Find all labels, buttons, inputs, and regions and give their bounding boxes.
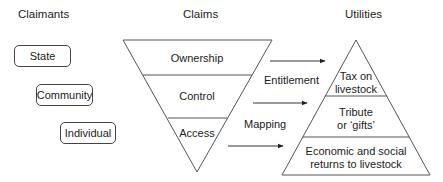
- claim-access: Access: [179, 127, 214, 140]
- utility-economic-social-returns: Economic and social returns to livestock: [306, 145, 407, 171]
- utility-tax-on-livestock: Tax on livestock: [335, 70, 377, 96]
- header-claims: Claims: [183, 8, 218, 20]
- claim-ownership: Ownership: [171, 52, 224, 65]
- utility-returns-line-1: Economic and social: [306, 145, 407, 158]
- claimant-box-individual: Individual: [60, 122, 116, 144]
- utility-returns-line-2: returns to livestock: [306, 158, 407, 171]
- utility-tribute-or-gifts: Tribute or ‘gifts’: [337, 106, 375, 132]
- utility-tax-line-1: Tax on: [335, 70, 377, 83]
- header-claimants: Claimants: [18, 8, 69, 20]
- claim-control: Control: [179, 90, 214, 103]
- utility-tax-line-2: livestock: [335, 83, 377, 96]
- relation-mapping: Mapping: [244, 118, 286, 130]
- header-utilities: Utilities: [345, 8, 382, 20]
- relation-entitlement: Entitlement: [264, 74, 319, 86]
- utility-tribute-line-1: Tribute: [337, 106, 375, 119]
- utility-tribute-line-2: or ‘gifts’: [337, 119, 375, 132]
- claimant-box-state: State: [14, 45, 71, 67]
- claimant-box-community: Community: [36, 84, 93, 106]
